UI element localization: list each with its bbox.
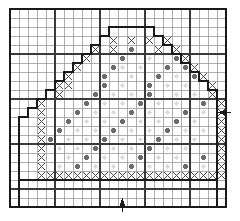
- chart-grid-canvas: [0, 0, 240, 221]
- knitting-chart: [0, 0, 240, 221]
